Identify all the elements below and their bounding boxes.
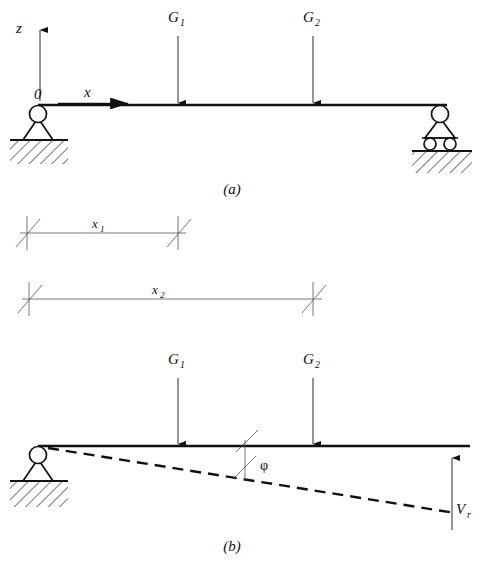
ground-hatch-left-a — [10, 140, 68, 164]
pin-support-pin-b — [30, 447, 47, 464]
load-g1-label-a: G — [168, 9, 179, 25]
dimension-x1: x 1 — [16, 216, 191, 250]
load-g1-label-b: G — [168, 351, 179, 367]
figure-root: z 0 x G 1 G 2 — [0, 0, 482, 572]
beam-diagram: z 0 x G 1 G 2 — [0, 0, 482, 572]
z-axis-label: z — [15, 20, 22, 36]
phi-angle-label: φ — [260, 458, 268, 473]
phi-offset-dimension: φ — [234, 430, 268, 480]
dimension-x1-label: x — [91, 216, 98, 231]
load-g2-a: G 2 — [303, 9, 320, 103]
load-g1-sublabel-a: 1 — [180, 17, 185, 28]
pin-support-pin-a — [30, 106, 47, 123]
reaction-vr-sublabel: r — [467, 509, 471, 520]
dimension-x2: x 2 — [18, 282, 326, 316]
caption-b: (b) — [223, 538, 241, 555]
reaction-vr-label: V — [456, 501, 467, 517]
origin-label: 0 — [34, 86, 42, 102]
ground-hatch-left-b — [10, 481, 68, 507]
pin-support-left-a — [10, 106, 68, 165]
load-g2-label-a: G — [303, 9, 314, 25]
load-g1-sublabel-b: 1 — [180, 359, 185, 370]
reaction-vr: V r — [452, 458, 471, 530]
roller-wheel-right-a — [444, 138, 456, 150]
dimension-lines: x 1 x 2 — [16, 216, 326, 316]
load-g1-a: G 1 — [168, 9, 185, 103]
caption-a: (a) — [223, 181, 241, 198]
load-g2-sublabel-b: 2 — [315, 359, 320, 370]
deflection-reference-line — [48, 448, 455, 513]
panel-b: G 1 G 2 φ V r — [10, 351, 471, 555]
load-g2-sublabel-a: 2 — [315, 17, 320, 28]
pin-support-left-b — [10, 447, 68, 508]
x-axis-label: x — [83, 84, 91, 100]
roller-support-pin-a — [432, 106, 449, 123]
ground-hatch-right-a — [412, 151, 472, 173]
roller-support-right-a — [412, 106, 472, 174]
dimension-x1-sublabel: 1 — [100, 224, 105, 234]
panel-a: z 0 x G 1 G 2 — [10, 9, 472, 198]
phi-tick-top-slash — [236, 430, 258, 452]
load-g1-b: G 1 — [168, 351, 185, 444]
dimension-x2-sublabel: 2 — [160, 290, 165, 300]
load-g2-label-b: G — [303, 351, 314, 367]
dimension-x2-label: x — [151, 282, 158, 297]
load-g2-b: G 2 — [303, 351, 320, 444]
roller-wheel-left-a — [424, 138, 436, 150]
